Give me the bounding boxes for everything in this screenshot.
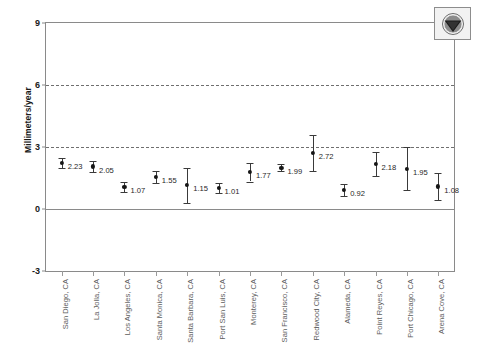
x-tick-mark bbox=[62, 271, 63, 276]
figure-canvas: Millimeters/year 9630-3San Diego, CA2.23… bbox=[0, 0, 477, 355]
x-tick-mark bbox=[93, 271, 94, 276]
error-bar-cap bbox=[121, 192, 128, 193]
data-point-value-label: 2.05 bbox=[99, 165, 114, 174]
error-bar-cap bbox=[247, 163, 254, 164]
error-bar-cap bbox=[403, 190, 410, 191]
data-point-value-label: 1.01 bbox=[225, 187, 240, 196]
x-tick-label: Alameda, CA bbox=[343, 279, 352, 324]
error-bar-cap bbox=[215, 183, 222, 184]
error-bar-cap bbox=[215, 193, 222, 194]
gridline-6 bbox=[46, 85, 454, 86]
data-point-marker[interactable] bbox=[436, 185, 440, 189]
data-point-value-label: 1.77 bbox=[256, 171, 271, 180]
error-bar-cap bbox=[278, 171, 285, 172]
y-tick-label: 0 bbox=[35, 204, 46, 214]
error-bar-cap bbox=[152, 171, 159, 172]
error-bar-cap bbox=[90, 172, 97, 173]
error-bar-cap bbox=[309, 135, 316, 136]
data-point-marker[interactable] bbox=[342, 188, 346, 192]
y-tick-label: 6 bbox=[35, 80, 46, 90]
x-tick-mark bbox=[438, 271, 439, 276]
data-point-marker[interactable] bbox=[185, 183, 189, 187]
x-tick-mark bbox=[376, 271, 377, 276]
data-point-marker[interactable] bbox=[279, 166, 283, 170]
data-point-value-label: 1.07 bbox=[130, 185, 145, 194]
x-tick-mark bbox=[281, 271, 282, 276]
gridline-0 bbox=[46, 209, 454, 210]
x-tick-label: Redwood City, CA bbox=[311, 279, 320, 341]
error-bar-cap bbox=[435, 200, 442, 201]
noaa-seal-glyph bbox=[440, 12, 466, 36]
error-bar-cap bbox=[58, 158, 65, 159]
x-tick-mark bbox=[124, 271, 125, 276]
error-bar-cap bbox=[58, 168, 65, 169]
x-tick-label: Arena Cove, CA bbox=[437, 279, 446, 334]
data-point-marker[interactable] bbox=[311, 151, 315, 155]
x-tick-label: La Jolla, CA bbox=[92, 279, 101, 320]
error-bar-cap bbox=[90, 161, 97, 162]
x-tick-label: Santa Barbara, CA bbox=[186, 279, 195, 343]
data-point-value-label: 2.72 bbox=[319, 151, 334, 160]
error-bar-cap bbox=[121, 182, 128, 183]
data-point-value-label: 1.55 bbox=[162, 175, 177, 184]
x-tick-label: Port San Luis, CA bbox=[217, 279, 226, 339]
error-bar-cap bbox=[341, 184, 348, 185]
y-tick-label: 9 bbox=[35, 18, 46, 28]
error-bar-cap bbox=[184, 168, 191, 169]
error-bar-cap bbox=[403, 147, 410, 148]
data-point-marker[interactable] bbox=[60, 161, 64, 165]
y-tick-label: 3 bbox=[35, 142, 46, 152]
x-tick-label: Los Angeles, CA bbox=[123, 279, 132, 335]
error-bar-cap bbox=[341, 196, 348, 197]
data-point-marker[interactable] bbox=[373, 162, 377, 166]
error-bar-cap bbox=[435, 173, 442, 174]
gridline-3 bbox=[46, 147, 454, 148]
data-point-marker[interactable] bbox=[405, 167, 409, 171]
data-point-value-label: 1.08 bbox=[444, 185, 459, 194]
x-tick-label: San Francisco, CA bbox=[280, 279, 289, 342]
data-point-marker[interactable] bbox=[248, 170, 252, 174]
data-point-value-label: 1.95 bbox=[413, 167, 428, 176]
y-axis-title: Millimeters/year bbox=[23, 40, 33, 200]
data-point-value-label: 0.92 bbox=[350, 188, 365, 197]
x-tick-mark bbox=[187, 271, 188, 276]
error-bar-cap bbox=[372, 152, 379, 153]
data-point-value-label: 2.18 bbox=[382, 162, 397, 171]
x-tick-label: Santa Monica, CA bbox=[154, 279, 163, 340]
plot-area: 9630-3San Diego, CA2.23La Jolla, CA2.05L… bbox=[45, 22, 455, 272]
x-tick-mark bbox=[344, 271, 345, 276]
x-tick-mark bbox=[250, 271, 251, 276]
data-point-marker[interactable] bbox=[91, 165, 95, 169]
x-tick-mark bbox=[407, 271, 408, 276]
y-tick-label: -3 bbox=[32, 266, 46, 276]
error-bar-cap bbox=[247, 182, 254, 183]
data-point-marker[interactable] bbox=[122, 185, 126, 189]
data-point-value-label: 2.23 bbox=[68, 161, 83, 170]
x-tick-mark bbox=[219, 271, 220, 276]
x-tick-label: Point Reyes, CA bbox=[374, 279, 383, 335]
x-tick-label: Monterey, CA bbox=[249, 279, 258, 325]
error-bar-cap bbox=[184, 203, 191, 204]
data-point-value-label: 1.99 bbox=[287, 166, 302, 175]
error-bar-cap bbox=[372, 176, 379, 177]
error-bar-cap bbox=[152, 183, 159, 184]
data-point-value-label: 1.15 bbox=[193, 184, 208, 193]
x-tick-label: Port Chicago, CA bbox=[405, 279, 414, 338]
data-point-marker[interactable] bbox=[154, 175, 158, 179]
x-tick-mark bbox=[313, 271, 314, 276]
noaa-logo-icon bbox=[434, 7, 471, 40]
error-bar-cap bbox=[309, 171, 316, 172]
x-tick-label: San Diego, CA bbox=[60, 279, 69, 329]
data-point-marker[interactable] bbox=[217, 186, 221, 190]
x-tick-mark bbox=[156, 271, 157, 276]
